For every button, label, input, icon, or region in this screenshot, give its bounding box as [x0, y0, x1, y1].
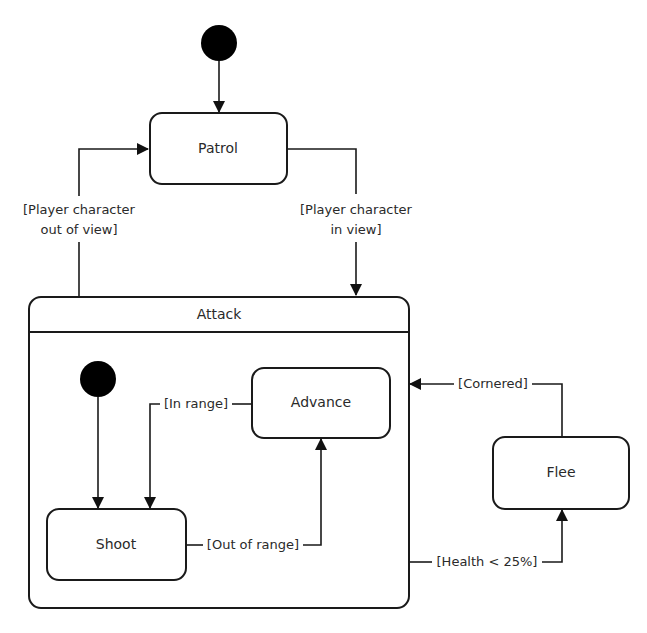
guard-health-low: [Health < 25%]	[437, 554, 538, 569]
state-advance-label: Advance	[291, 394, 351, 410]
state-flee: Flee	[493, 437, 629, 509]
guard-in-range: [In range]	[164, 396, 228, 411]
state-diagram: Patrol [Player character out of view] [P…	[0, 0, 647, 633]
state-flee-label: Flee	[546, 464, 575, 480]
state-patrol: Patrol	[150, 113, 287, 184]
state-advance: Advance	[252, 368, 390, 438]
guard-cornered: [Cornered]	[458, 376, 528, 391]
guard-out-of-range: [Out of range]	[207, 537, 299, 552]
initial-state-attack	[80, 361, 116, 397]
guard-in-view-line2: in view]	[331, 222, 382, 237]
transition-cornered: [Cornered]	[410, 376, 562, 438]
initial-state-top	[201, 25, 237, 61]
state-shoot: Shoot	[47, 509, 186, 580]
transition-out-of-view: [Player character out of view]	[23, 149, 148, 297]
transition-health-low: [Health < 25%]	[409, 510, 562, 569]
guard-out-of-view-line1: [Player character	[23, 202, 136, 217]
guard-in-view-line1: [Player character	[300, 202, 413, 217]
transition-in-view: [Player character in view]	[287, 149, 413, 295]
state-attack-label: Attack	[197, 306, 243, 322]
state-patrol-label: Patrol	[198, 140, 238, 156]
guard-out-of-view-line2: out of view]	[40, 222, 117, 237]
state-shoot-label: Shoot	[96, 536, 137, 552]
